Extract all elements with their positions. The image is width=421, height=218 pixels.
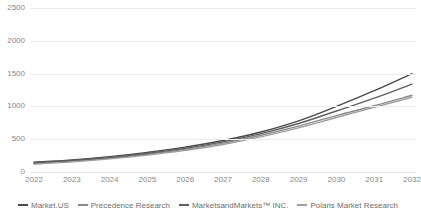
- series-lines: [30, 8, 416, 172]
- chart-legend: Market.USPrecedence ResearchMarketsandMa…: [0, 196, 416, 214]
- y-tick-label: 2500: [7, 4, 25, 12]
- y-tick-label: 1500: [7, 70, 25, 78]
- legend-label: Polaris Market Research: [310, 201, 398, 210]
- series-line: [34, 74, 412, 163]
- x-tick-label: 2025: [138, 175, 156, 184]
- y-tick-label: 1000: [7, 102, 25, 110]
- legend-item[interactable]: Market.US: [18, 201, 69, 210]
- gridline: [30, 41, 416, 42]
- x-tick-label: 2030: [327, 175, 345, 184]
- series-line: [34, 84, 412, 163]
- x-tick-label: 2026: [176, 175, 194, 184]
- gridline: [30, 8, 416, 9]
- gridline: [30, 139, 416, 140]
- legend-swatch-icon: [297, 204, 307, 206]
- legend-item[interactable]: MarketsandMarkets™ INC.: [179, 201, 288, 210]
- legend-label: Precedence Research: [91, 201, 170, 210]
- x-tick-label: 2024: [101, 175, 119, 184]
- x-tick-label: 2028: [252, 175, 270, 184]
- x-tick-label: 2027: [214, 175, 232, 184]
- gridline: [30, 74, 416, 75]
- legend-swatch-icon: [78, 204, 88, 206]
- x-tick-label: 2031: [365, 175, 383, 184]
- legend-item[interactable]: Precedence Research: [78, 201, 170, 210]
- legend-item[interactable]: Polaris Market Research: [297, 201, 398, 210]
- x-tick-label: 2022: [25, 175, 43, 184]
- x-tick-label: 2029: [290, 175, 308, 184]
- legend-swatch-icon: [18, 204, 28, 206]
- y-axis: 05001000150020002500: [0, 0, 30, 180]
- plot-area: [30, 8, 416, 172]
- x-tick-label: 2032: [403, 175, 421, 184]
- gridline: [30, 106, 416, 107]
- legend-swatch-icon: [179, 204, 189, 206]
- legend-label: Market.US: [31, 201, 69, 210]
- x-tick-label: 2023: [63, 175, 81, 184]
- legend-label: MarketsandMarkets™ INC.: [192, 201, 288, 210]
- y-tick-label: 2000: [7, 37, 25, 45]
- x-axis: 2022202320242025202620272028202920302031…: [30, 175, 416, 189]
- gridline: [30, 172, 416, 173]
- y-tick-label: 500: [12, 135, 25, 143]
